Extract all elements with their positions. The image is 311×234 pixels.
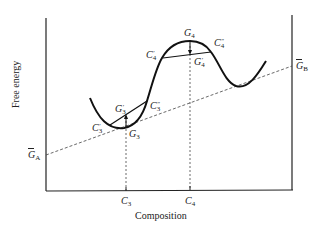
label-g3-prime: G3′ [115, 102, 124, 117]
y-axis-label: Free energy [10, 61, 21, 108]
tick-label-c3: C3 [121, 196, 131, 209]
label-g4-prime: G4′ [194, 55, 203, 70]
diagram-canvas [0, 0, 311, 234]
x-axis [46, 190, 293, 191]
label-g3: G3 [129, 129, 140, 142]
label-ga: GA [28, 150, 40, 163]
label-c4-prime: C4′ [146, 48, 155, 63]
tangent-line-dashed [46, 66, 292, 155]
label-g4: G4 [184, 28, 195, 41]
tick-label-c4: C4 [185, 196, 195, 209]
label-c4-double-prime: C4″ [214, 36, 224, 51]
label-c3-prime: C3′ [92, 121, 101, 136]
x-axis-label: Composition [135, 210, 187, 221]
label-c3-double-prime: C3″ [150, 99, 160, 114]
chord-c4 [163, 52, 211, 58]
label-gb: GB [296, 61, 308, 74]
